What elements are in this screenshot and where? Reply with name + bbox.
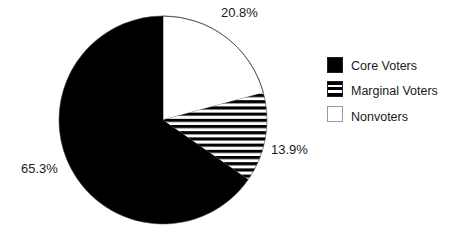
legend-swatch-striped-icon [327, 81, 343, 97]
label-nonvoters-percent: 20.8% [221, 5, 258, 20]
legend-label: Marginal Voters [351, 84, 438, 98]
label-core-percent: 65.3% [21, 161, 58, 176]
legend-swatch-white-icon [327, 106, 343, 122]
legend-label: Core Voters [351, 59, 417, 73]
legend-swatch-solid-icon [327, 57, 343, 73]
legend-label: Nonvoters [351, 110, 408, 124]
label-marginal-percent: 13.9% [271, 142, 308, 157]
